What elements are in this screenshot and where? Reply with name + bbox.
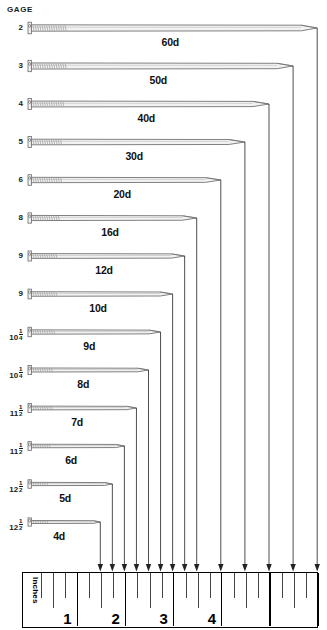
ruler-subtick xyxy=(41,573,42,598)
nail-size-label: 16d xyxy=(101,226,119,238)
leader-line-8d xyxy=(146,370,151,572)
ruler-subtick xyxy=(246,573,247,608)
ruler-subtick xyxy=(53,573,54,608)
ruler-inch-mark xyxy=(269,573,270,626)
ruler-number: 3 xyxy=(160,611,168,626)
ruler-subtick xyxy=(101,573,102,608)
ruler-subtick xyxy=(234,573,235,598)
nail-size-label: 5d xyxy=(59,492,71,504)
nail-6d xyxy=(28,442,124,451)
leader-line-12d xyxy=(182,256,187,572)
nail-30d xyxy=(28,137,245,148)
leader-line-50d xyxy=(290,66,295,572)
nail-size-label: 9d xyxy=(83,340,95,352)
ruler-subtick xyxy=(198,573,199,608)
ruler-subtick xyxy=(258,573,259,598)
nail-4d xyxy=(28,518,100,526)
ruler-subtick xyxy=(137,573,138,598)
nail-size-label: 60d xyxy=(162,36,180,48)
nail-5d xyxy=(28,480,112,488)
nail-size-label: 6d xyxy=(65,454,77,466)
nail-size-label: 10d xyxy=(89,302,107,314)
ruler-subtick xyxy=(294,573,295,608)
ruler-number: 4 xyxy=(208,611,216,626)
leader-line-16d xyxy=(194,218,199,572)
nail-size-label: 30d xyxy=(125,150,143,162)
leader-line-10d xyxy=(170,294,175,572)
nail-60d xyxy=(28,22,317,34)
ruler-inch-mark xyxy=(125,573,126,626)
leader-line-7d xyxy=(134,408,139,572)
nail-10d xyxy=(28,289,173,299)
ruler-subtick xyxy=(210,573,211,598)
leader-line-40d xyxy=(266,104,271,572)
leader-line-20d xyxy=(218,180,223,572)
ruler-subtick xyxy=(150,573,151,608)
leader-line-30d xyxy=(242,142,247,572)
ruler-subtick xyxy=(282,573,283,598)
nail-size-label: 12d xyxy=(95,264,113,276)
ruler-subtick xyxy=(186,573,187,598)
nail-size-label: 50d xyxy=(150,74,168,86)
ruler-subtick xyxy=(113,573,114,598)
ruler-unit-label: Inches xyxy=(39,577,40,604)
ruler-inch-mark xyxy=(77,573,78,626)
ruler-inch-mark xyxy=(318,573,319,626)
nail-7d xyxy=(28,404,136,413)
nail-12d xyxy=(28,251,185,261)
nail-size-label: 40d xyxy=(138,112,156,124)
nail-40d xyxy=(28,98,269,109)
leader-line-5d xyxy=(110,484,115,572)
nail-size-label: 4d xyxy=(53,530,65,542)
nail-size-label: 7d xyxy=(71,416,83,428)
inch-ruler: Inches1234 xyxy=(22,572,318,628)
ruler-subtick xyxy=(65,573,66,598)
nail-8d xyxy=(28,365,149,374)
nail-size-label: 20d xyxy=(113,188,131,200)
ruler-inch-mark xyxy=(221,573,222,626)
leader-line-60d xyxy=(315,28,320,572)
ruler-subtick xyxy=(162,573,163,598)
ruler-number: 2 xyxy=(111,611,119,626)
ruler-subtick xyxy=(89,573,90,598)
leader-line-4d xyxy=(98,522,103,572)
leader-line-6d xyxy=(122,446,127,572)
ruler-subtick xyxy=(306,573,307,598)
nail-diagram-artwork xyxy=(0,0,327,630)
nail-9d xyxy=(28,327,161,337)
nail-50d xyxy=(28,60,293,71)
nail-20d xyxy=(28,175,221,186)
ruler-inch-mark xyxy=(173,573,174,626)
nail-16d xyxy=(28,213,197,223)
leader-line-9d xyxy=(158,332,163,572)
ruler-number: 1 xyxy=(63,611,71,626)
nail-size-chart: GAGE 23456899101410141112111212121212 60… xyxy=(0,0,327,630)
nail-size-label: 8d xyxy=(77,378,89,390)
